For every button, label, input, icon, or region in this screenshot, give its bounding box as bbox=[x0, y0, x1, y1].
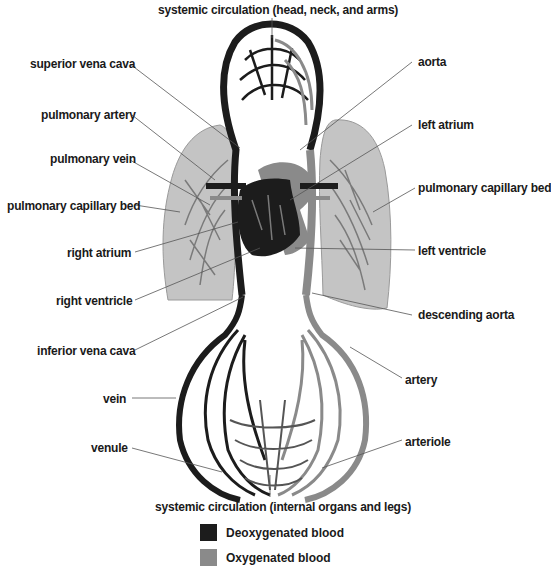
label-systemic-circulation-upper: systemic circulation (head, neck, and ar… bbox=[158, 3, 398, 17]
legend-swatch-deoxygenated bbox=[200, 524, 217, 541]
label-inferior-vena-cava: inferior vena cava bbox=[37, 344, 135, 358]
right-lung-illustration bbox=[163, 125, 235, 300]
label-right-atrium: right atrium bbox=[67, 246, 131, 260]
label-left-ventricle: left ventricle bbox=[418, 244, 486, 258]
legend-item-oxygenated: Oxygenated blood bbox=[200, 549, 331, 566]
label-superior-vena-cava: superior vena cava bbox=[30, 57, 135, 71]
label-artery: artery bbox=[405, 373, 437, 387]
label-pulmonary-capillary-bed-right: pulmonary capillary bed bbox=[418, 181, 551, 195]
label-left-atrium: left atrium bbox=[418, 118, 474, 132]
label-pulmonary-artery: pulmonary artery bbox=[41, 108, 136, 122]
label-vein: vein bbox=[103, 392, 126, 406]
label-systemic-circulation-lower: systemic circulation (internal organs an… bbox=[155, 500, 411, 514]
legend-label-deoxygenated: Deoxygenated blood bbox=[226, 526, 344, 540]
label-arteriole: arteriole bbox=[405, 435, 451, 449]
legend-label-oxygenated: Oxygenated blood bbox=[226, 551, 331, 565]
label-aorta: aorta bbox=[418, 55, 446, 69]
label-pulmonary-capillary-bed-left: pulmonary capillary bed bbox=[7, 199, 140, 213]
legend-item-deoxygenated: Deoxygenated blood bbox=[200, 524, 344, 541]
label-right-ventricle: right ventricle bbox=[56, 294, 132, 308]
legend-swatch-oxygenated bbox=[200, 549, 217, 566]
lower-systemic-circulation bbox=[179, 295, 366, 500]
label-descending-aorta: descending aorta bbox=[418, 308, 514, 322]
left-lung-illustration bbox=[319, 120, 390, 309]
label-pulmonary-vein: pulmonary vein bbox=[50, 152, 136, 166]
label-venule: venule bbox=[91, 441, 128, 455]
